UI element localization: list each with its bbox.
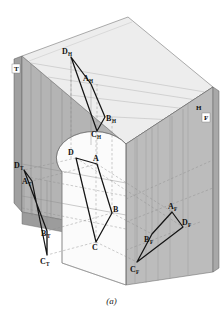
point-label-BH-sub: H: [112, 118, 116, 124]
point-label-DT-sub: T: [20, 165, 24, 171]
point-label-D: D: [68, 148, 74, 157]
point-label-CT-sub: T: [46, 261, 50, 267]
plane-label-F: F: [204, 114, 208, 122]
profile-plane-outer-face: [14, 56, 22, 212]
plane-label-H: H: [196, 104, 202, 112]
point-label-CH-sub: H: [97, 134, 101, 140]
point-label-DH-sub: H: [68, 51, 72, 57]
figure-container: D A B C D H A H B H C H A F D F B F C F …: [0, 0, 223, 318]
point-label-CF-sub: F: [136, 269, 139, 275]
point-label-B: B: [113, 205, 119, 214]
point-label-C: C: [92, 243, 98, 252]
point-label-BT-sub: T: [47, 233, 51, 239]
point-label-A: A: [93, 154, 99, 163]
point-label-AT-sub: T: [28, 181, 32, 187]
frontal-plane-edge-face: [213, 87, 219, 272]
point-label-AF-sub: F: [174, 206, 177, 212]
figure-caption: (a): [0, 296, 223, 306]
point-label-DF-sub: F: [188, 222, 191, 228]
point-label-BF-sub: F: [150, 239, 153, 245]
projection-box-drawing: D A B C D H A H B H C H A F D F B F C F …: [0, 0, 223, 318]
point-label-AH-sub: H: [89, 78, 93, 84]
plane-label-T: T: [14, 65, 19, 73]
